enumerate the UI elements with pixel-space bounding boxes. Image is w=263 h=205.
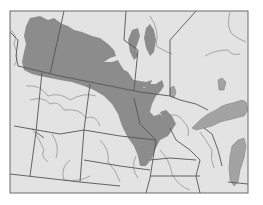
range-map [0,0,263,205]
